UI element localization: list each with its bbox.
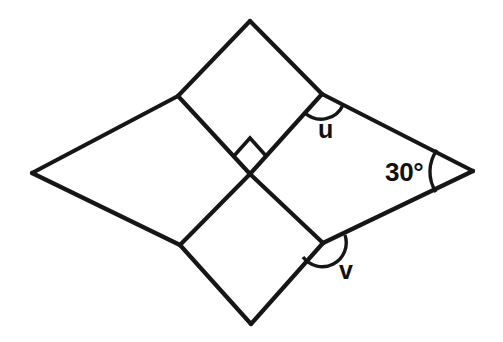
angle-label-v: v [339, 258, 353, 283]
edge-upper-left-junction-to-left-vertex [32, 96, 178, 173]
edge-u-vertex-to-center [250, 94, 322, 174]
edge-top-apex-to-u-vertex [250, 21, 322, 94]
edge-lower-left-junction-to-center [180, 174, 250, 245]
angle-label-30-degrees: 30° [385, 159, 423, 185]
geometry-figure: u v 30° [0, 0, 503, 342]
edge-v-vertex-to-center [250, 174, 323, 243]
right-angle-marker-icon [233, 138, 267, 157]
edge-lower-left-junction-to-bottom-apex [180, 245, 251, 324]
geometry-canvas [0, 0, 503, 342]
edge-upper-left-junction-to-center [178, 96, 250, 174]
angle-label-u: u [318, 117, 333, 142]
edge-top-apex-to-upper-left-junction [178, 21, 250, 96]
edge-bottom-apex-to-v-vertex [251, 243, 323, 324]
angle-arc-30deg [430, 150, 437, 192]
edge-left-vertex-to-lower-left-junction [32, 173, 180, 245]
